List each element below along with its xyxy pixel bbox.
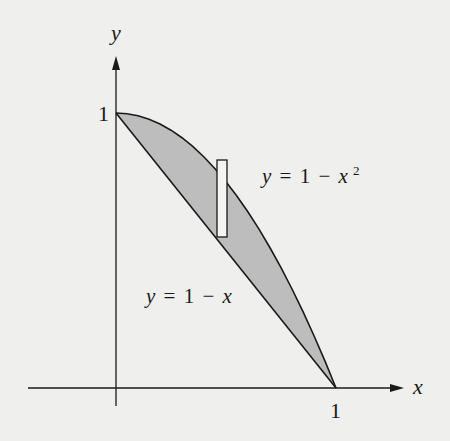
x-axis-label: x	[412, 374, 423, 399]
region-diagram: y x 1 1 y = 1 − x 2 y = 1 − x	[0, 0, 450, 441]
x-tick-label-1: 1	[330, 398, 341, 423]
x-axis-arrow-icon	[390, 384, 404, 392]
y-axis-label: y	[109, 20, 121, 45]
parabola-equation-label: y = 1 − x 2	[260, 163, 360, 188]
y-axis-arrow-icon	[112, 56, 120, 70]
line-equation-label: y = 1 − x	[144, 284, 233, 308]
diagram-canvas: y x 1 1 y = 1 − x 2 y = 1 − x	[0, 0, 450, 441]
representative-strip	[217, 160, 227, 237]
y-tick-label-1: 1	[98, 101, 109, 126]
curve-line	[116, 113, 336, 388]
